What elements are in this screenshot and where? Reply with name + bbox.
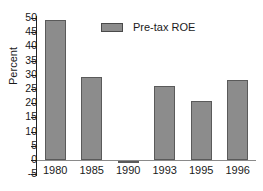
x-axis-zero-line xyxy=(36,160,256,161)
y-tick-label: 30 xyxy=(9,69,37,80)
bar xyxy=(81,77,102,160)
bar xyxy=(45,20,66,160)
y-tick-label: 35 xyxy=(9,55,37,66)
legend: Pre-tax ROE xyxy=(101,21,195,33)
bar xyxy=(191,101,212,160)
bar-chart: Percent 50454035302520151050-5 198019851… xyxy=(0,0,263,191)
y-tick-label: 20 xyxy=(9,97,37,108)
y-tick-label: 5 xyxy=(9,140,37,151)
bar xyxy=(154,86,175,160)
y-tick-label: 45 xyxy=(9,26,37,37)
legend-swatch-pre-tax-roe xyxy=(101,23,123,32)
y-tick-label: 0 xyxy=(9,154,37,165)
y-tick-label: 25 xyxy=(9,83,37,94)
legend-label-pre-tax-roe: Pre-tax ROE xyxy=(133,21,195,33)
bar xyxy=(118,161,139,163)
y-tick-label: 10 xyxy=(9,126,37,137)
y-tick-label: 50 xyxy=(9,12,37,23)
y-tick-label: 15 xyxy=(9,111,37,122)
y-tick-label: 40 xyxy=(9,40,37,51)
x-tick-label: 1996 xyxy=(216,165,260,176)
bar xyxy=(227,80,248,160)
